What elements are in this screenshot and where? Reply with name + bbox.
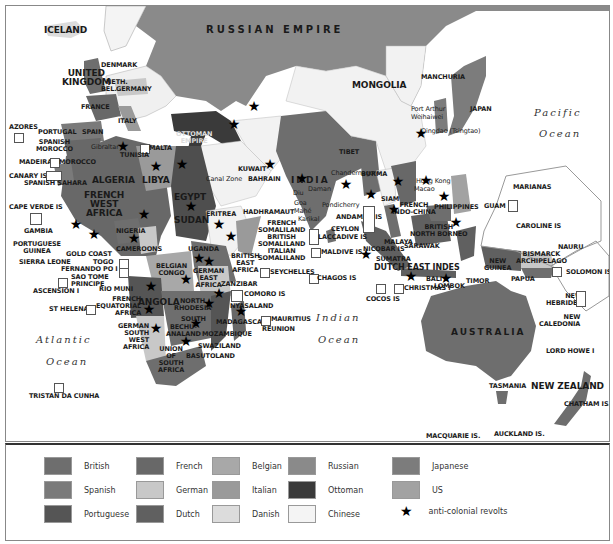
legend-swatch [288,481,316,499]
island-box-andaman [363,206,375,233]
revolt-star-icon: ★ [150,321,163,335]
revolt-star-icon: ★ [248,99,261,113]
label-christmas: CHRISTMAS I [404,285,451,292]
revolt-star-icon: ★ [145,279,158,293]
label-chagos: CHAGOS IS [317,275,356,282]
label-denmark: DENMARK [101,62,137,69]
label-papua: PAPUA [511,276,535,283]
revolt-star-icon: ★ [70,217,83,231]
label-guam: GUAM [484,203,506,210]
label-daman: Daman [308,186,331,193]
label-spanish-morocco: SPANISH MOROCCO [36,139,73,153]
label-fernando-po: FERNANDO PO I [61,266,118,273]
legend-swatch [136,505,164,523]
label-new-zealand: NEW ZEALAND [531,382,604,391]
revolt-star-icon: ★ [213,217,226,231]
legend-label: anti-colonial revolts [429,507,508,516]
label-sarawak: SARAWAK [404,243,440,250]
island-box-comoro [231,290,243,302]
revolt-star-icon: ★ [117,139,130,153]
label-chatham: CHATHAM IS. [564,401,610,408]
legend-swatch [44,481,72,499]
legend-swatch [288,457,316,475]
island-box-azores [14,133,24,143]
island-box-new-hebrides [576,291,586,307]
label-french-equatorial: FRENCH EQUATORIAL AFRICA [96,296,141,317]
legend-swatch [212,457,240,475]
label-spain: SPAIN [82,129,103,136]
label-russian-empire: RUSSIAN EMPIRE [206,26,343,33]
revolt-star-icon: ★ [138,207,151,221]
region-tasmania [496,391,508,404]
label-cameroons: CAMEROONS [116,246,162,253]
revolt-star-icon: ★ [392,174,405,188]
revolt-star-icon: ★ [150,159,163,173]
label-mauritius: MAURITIUS [271,316,311,323]
label-gibraltar: Gibraltar [91,144,119,151]
legend-swatch [136,457,164,475]
label-pondicherry: Pondicherry [322,202,359,209]
label-auckland: AUCKLAND IS. [494,431,545,438]
label-madeira: MADEIRA [19,159,52,166]
revolt-star-icon: ★ [180,272,193,286]
legend-swatch [392,457,420,475]
island-box-cocos [376,284,386,294]
revolt-star-icon: ★ [400,503,413,519]
label-nauru: NAURU [558,244,583,251]
revolt-star-icon: ★ [180,334,193,348]
legend-swatch [44,457,72,475]
legend-label: US [432,486,443,495]
label-malta: MALTA [149,145,172,152]
label-italy: ITALY [118,118,137,125]
legend-item-japanese: Japanese [392,457,468,475]
label-mongolia: MONGOLIA [352,81,406,90]
label-gold-coast: GOLD COAST [66,251,112,258]
label-seychelles: SEYCHELLES [270,269,315,276]
label-qingdao: Qingdao (Tsingtao) [421,128,480,135]
revolt-star-icon: ★ [128,231,141,245]
revolt-star-icon: ★ [88,227,101,241]
legend-label: Japanese [432,462,468,471]
label-algeria: ALGERIA [92,176,135,185]
label-madagascar: MADAGASCAR [216,319,267,326]
legend-swatch [392,481,420,499]
label-philippines: PHILIPPINES [434,204,479,211]
legend-item-us: US [392,481,443,499]
label-cape-verde: CAPE VERDE IS [9,204,63,211]
island-box-maldive [311,248,321,258]
label-cocos: COCOS IS [366,296,400,303]
label-france: FRANCE [81,104,110,111]
revolt-star-icon: ★ [176,157,189,171]
island-box-st-helena [86,305,96,315]
label-new-caledonia: NEW CALEDONIA [539,314,580,328]
legend-item-portuguese: Portuguese [44,505,129,523]
label-pacific-ocean: Pacific [534,109,582,116]
label-british-east-africa: BRITISH EAST AFRICA [231,253,260,274]
label-libya: LIBYA [142,176,170,185]
revolt-star-icon: ★ [420,173,433,187]
label-pacific-ocean-2: Ocean [539,130,581,137]
label-macquarie: MACQUARIE IS. [426,433,480,440]
label-burma: BURMA [361,171,387,178]
label-tasmania: TASMANIA [489,383,526,390]
legend-label: French [176,462,203,471]
label-marianas: MARIANAS [513,184,551,191]
region-japan [448,56,486,136]
label-gambia: GAMBIA [24,228,53,235]
label-atlantic-ocean-2: Ocean [46,358,88,365]
label-atlantic-ocean: Atlantic [36,336,91,343]
legend-item-dutch: Dutch [136,505,200,523]
legend-label: Chinese [328,510,360,519]
island-box-christmas [394,284,404,294]
label-mozambique: MOZAMBIQUE [202,331,252,338]
label-iceland: ICELAND [44,26,87,35]
region-new-zealand [554,371,591,426]
island-box-cape-verde [30,213,42,225]
label-bel: BEL. [101,86,117,93]
label-comoro: COMORO IS [244,291,285,298]
label-german-sw-africa: GERMAN SOUTH WEST AFRICA [118,323,149,351]
legend-item-danish: Danish [212,505,280,523]
legend-swatch [212,505,240,523]
island-box-solomon [552,267,562,277]
label-indian-ocean-2: Ocean [318,336,360,343]
